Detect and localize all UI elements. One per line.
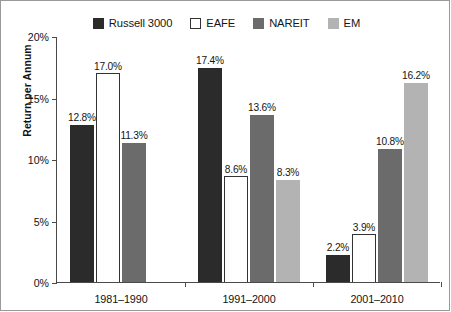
y-axis-tick-label: 15% <box>28 93 49 105</box>
bar: 8.6% <box>224 176 248 282</box>
x-axis-category-label: 1991–2000 <box>222 293 275 305</box>
y-axis-tick-label: 10% <box>28 154 49 166</box>
bar: 17.0% <box>96 73 120 282</box>
y-axis-tick <box>52 283 57 284</box>
y-axis-tick <box>52 99 57 100</box>
y-axis-tick <box>52 37 57 38</box>
bar: 16.2% <box>404 83 428 282</box>
bar: 12.8% <box>70 125 94 282</box>
bar: 13.6% <box>250 115 274 282</box>
x-axis-end-tick <box>441 282 442 287</box>
legend-label: EM <box>344 18 361 29</box>
plot-area: 0%5%10%15%20%1981–199012.8%17.0%11.3%199… <box>56 37 440 283</box>
square-outline-icon <box>190 18 201 29</box>
square-filled-gray-icon <box>253 18 264 29</box>
bar-value-label: 17.0% <box>94 61 122 72</box>
bar-value-label: 12.8% <box>68 112 96 123</box>
y-axis-tick <box>52 222 57 223</box>
legend-label: Russell 3000 <box>109 18 172 29</box>
plot-wrapper: 0%5%10%15%20%1981–199012.8%17.0%11.3%199… <box>56 37 440 283</box>
y-axis-tick <box>52 160 57 161</box>
square-filled-dark-icon <box>93 18 104 29</box>
x-axis-category-label: 2001–2010 <box>350 293 403 305</box>
legend-label: EAFE <box>206 18 235 29</box>
legend-item-em[interactable]: EM <box>328 18 361 29</box>
legend-item-nareit[interactable]: NAREIT <box>253 18 309 29</box>
bar-value-label: 11.3% <box>120 130 147 141</box>
bar-value-label: 17.4% <box>196 55 224 66</box>
x-axis-category-label: 1981–1990 <box>94 293 147 305</box>
x-axis-tick <box>313 282 314 287</box>
bar: 17.4% <box>198 68 222 282</box>
chart-legend: Russell 3000EAFENAREITEM <box>1 15 451 31</box>
bar-value-label: 3.9% <box>353 222 375 233</box>
bar-value-label: 8.6% <box>225 164 247 175</box>
chart-page-frame: Russell 3000EAFENAREITEM Return per Annu… <box>0 0 450 311</box>
bar: 11.3% <box>122 143 146 282</box>
x-axis-tick <box>185 282 186 287</box>
square-filled-light-gray-icon <box>328 18 339 29</box>
legend-label: NAREIT <box>269 18 309 29</box>
bar: 10.8% <box>378 149 402 282</box>
legend-item-eafe[interactable]: EAFE <box>190 18 235 29</box>
y-axis-tick-label: 20% <box>28 31 49 43</box>
bar: 8.3% <box>276 180 300 282</box>
bar: 3.9% <box>352 234 376 282</box>
legend-item-russell-3000[interactable]: Russell 3000 <box>93 18 172 29</box>
y-axis-tick-label: 5% <box>34 216 49 228</box>
bar-value-label: 13.6% <box>248 102 276 113</box>
bar: 2.2% <box>326 255 350 282</box>
y-axis-tick-label: 0% <box>34 277 49 289</box>
bar-value-label: 10.8% <box>376 136 404 147</box>
bar-value-label: 8.3% <box>277 167 299 178</box>
bar-value-label: 16.2% <box>402 70 430 81</box>
bar-value-label: 2.2% <box>327 242 349 253</box>
